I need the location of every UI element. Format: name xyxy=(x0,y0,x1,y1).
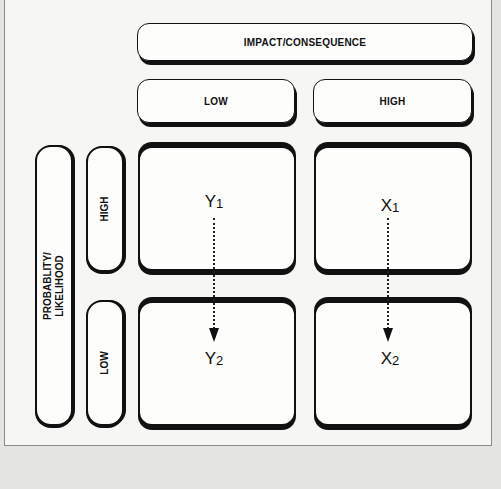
column-low-label: LOW xyxy=(204,96,228,107)
row-high-label: HIGH xyxy=(99,197,111,222)
arrow-y1-to-y2 xyxy=(213,218,215,333)
column-header-high: HIGH xyxy=(313,79,472,123)
point-y1-sub: 1 xyxy=(216,196,223,211)
point-x2-sub: 2 xyxy=(392,353,399,368)
point-y1-base: Y xyxy=(205,192,216,211)
page: IMPACT/CONSEQUENCE LOW HIGH PROBABLITY/ … xyxy=(0,0,501,489)
probability-label-line2: LIKELIHOOD xyxy=(54,252,66,320)
point-x1-sub: 1 xyxy=(392,200,399,215)
row-low-label: LOW xyxy=(99,351,111,374)
impact-consequence-label: IMPACT/CONSEQUENCE xyxy=(244,37,366,48)
point-y2-sub: 2 xyxy=(216,353,223,368)
point-x2: X2 xyxy=(381,349,400,369)
column-header-low: LOW xyxy=(137,79,295,123)
probability-label-line1: PROBABLITY/ xyxy=(42,252,54,320)
point-x1: X1 xyxy=(381,196,400,216)
arrowhead-x2 xyxy=(383,328,393,342)
row-header-low: LOW xyxy=(86,300,124,426)
point-y2: Y2 xyxy=(205,349,224,369)
point-x2-base: X xyxy=(381,349,392,368)
point-x1-base: X xyxy=(381,196,392,215)
probability-likelihood-header: PROBABLITY/ LIKELIHOOD xyxy=(35,145,73,426)
point-y1: Y1 xyxy=(205,192,224,212)
impact-consequence-header: IMPACT/CONSEQUENCE xyxy=(137,23,473,61)
arrow-x1-to-x2 xyxy=(387,218,389,333)
column-high-label: HIGH xyxy=(380,96,406,107)
row-header-high: HIGH xyxy=(86,146,124,272)
arrowhead-y2 xyxy=(209,328,219,342)
probability-likelihood-label: PROBABLITY/ LIKELIHOOD xyxy=(42,252,66,320)
point-y2-base: Y xyxy=(205,349,216,368)
